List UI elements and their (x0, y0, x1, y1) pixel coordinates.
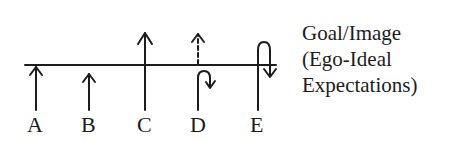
label-e: E (250, 114, 263, 136)
goal-image-diagram: A B C D E Goal/Image (Ego-Ideal Expectat… (0, 0, 465, 141)
legend-line-1: Goal/Image (302, 20, 417, 46)
legend-line-2: (Ego-Ideal (302, 46, 417, 72)
label-a: A (27, 114, 43, 136)
label-d: D (190, 114, 206, 136)
goal-image-legend: Goal/Image (Ego-Ideal Expectations) (302, 20, 417, 98)
arrow-d-hook-icon (198, 71, 215, 110)
legend-line-3: Expectations) (302, 72, 417, 98)
arrow-d-dashed-icon (192, 34, 204, 64)
arrow-c-icon (138, 33, 152, 110)
arrow-e-loop-icon (258, 42, 276, 110)
arrow-b-icon (83, 74, 95, 110)
label-b: B (81, 114, 96, 136)
label-c: C (137, 114, 152, 136)
arrow-a-icon (30, 67, 42, 110)
